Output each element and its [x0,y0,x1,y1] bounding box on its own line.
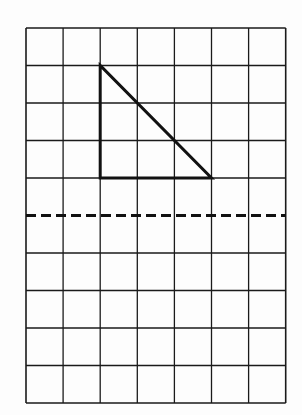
right-triangle [100,66,211,179]
grid-diagram [0,0,302,415]
